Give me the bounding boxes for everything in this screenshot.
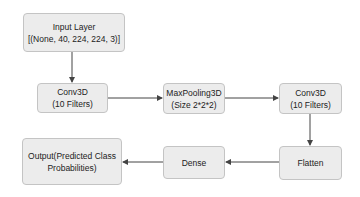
node-flatten-title: Flatten bbox=[298, 157, 324, 169]
node-conv3d-2: Conv3D (10 Filters) bbox=[279, 83, 342, 114]
node-dense: Dense bbox=[163, 146, 225, 179]
node-conv3d-1-detail: (10 Filters) bbox=[52, 98, 93, 110]
node-input-layer: Input Layer [(None, 40, 224, 224, 3)] bbox=[23, 13, 125, 52]
node-maxpooling3d-detail: (Size 2*2*2) bbox=[171, 99, 216, 111]
node-input-layer-title: Input Layer bbox=[53, 21, 96, 33]
node-conv3d-1-title: Conv3D bbox=[57, 86, 88, 98]
node-conv3d-2-title: Conv3D bbox=[295, 87, 326, 99]
node-maxpooling3d: MaxPooling3D (Size 2*2*2) bbox=[163, 83, 225, 114]
node-maxpooling3d-title: MaxPooling3D bbox=[166, 87, 221, 99]
node-output-detail: Probabilities) bbox=[47, 162, 96, 174]
node-input-layer-shape: [(None, 40, 224, 224, 3)] bbox=[28, 33, 120, 45]
node-output: Output(Predicted Class Probabilities) bbox=[22, 138, 122, 185]
node-output-title: Output(Predicted Class bbox=[28, 150, 116, 162]
node-conv3d-2-detail: (10 Filters) bbox=[290, 99, 331, 111]
node-conv3d-1: Conv3D (10 Filters) bbox=[37, 83, 108, 113]
node-dense-title: Dense bbox=[182, 157, 207, 169]
node-flatten: Flatten bbox=[279, 146, 342, 180]
